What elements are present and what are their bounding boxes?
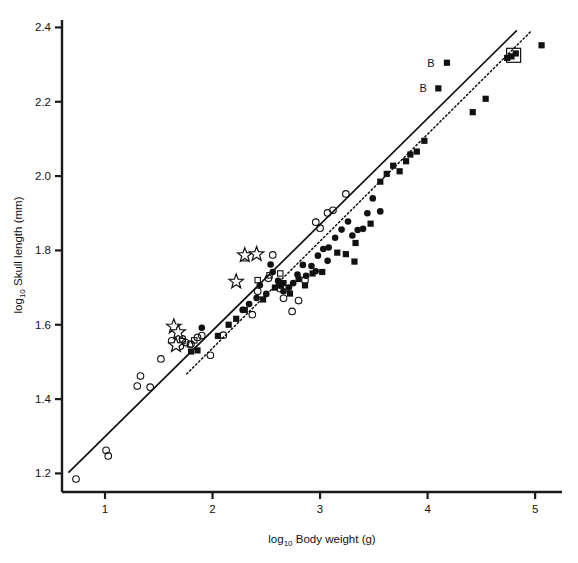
data-point-filled-circle bbox=[325, 244, 332, 251]
data-point-filled-circle bbox=[345, 218, 352, 225]
data-point-filled-circle bbox=[263, 291, 270, 298]
y-axis-title-text: Skull length (mm) bbox=[12, 196, 24, 286]
data-point-filled-circle bbox=[364, 210, 371, 217]
data-point-filled-circle bbox=[267, 261, 274, 268]
data-point-filled-circle bbox=[300, 262, 307, 269]
data-point-filled-square bbox=[414, 148, 420, 154]
data-point-filled-circle bbox=[257, 282, 264, 289]
data-point-filled-square bbox=[280, 280, 286, 286]
y-tick-label: 1.4 bbox=[35, 393, 52, 405]
data-point-filled-square bbox=[513, 50, 519, 56]
data-point-filled-square bbox=[390, 163, 396, 169]
data-point-filled-circle bbox=[349, 232, 356, 239]
x-axis-title-text: Body weight (g) bbox=[296, 533, 376, 545]
data-point-filled-circle bbox=[246, 301, 253, 308]
data-point-filled-square bbox=[403, 158, 409, 164]
data-point-filled-square bbox=[377, 179, 383, 185]
data-point-filled-square bbox=[302, 282, 308, 288]
data-point-filled-square bbox=[444, 60, 450, 66]
x-tick-label: 2 bbox=[209, 503, 215, 515]
y-tick-label: 2.4 bbox=[35, 21, 52, 33]
x-tick-label: 3 bbox=[317, 503, 323, 515]
data-point-filled-square bbox=[194, 347, 200, 353]
plot-canvas: BB 1.21.41.61.82.02.22.4 12345 log10 Sku… bbox=[0, 0, 578, 563]
scatter-plot-figure: BB 1.21.41.61.82.02.22.4 12345 log10 Sku… bbox=[0, 0, 578, 563]
data-point-filled-circle bbox=[332, 234, 339, 241]
data-point-filled-square bbox=[407, 151, 413, 157]
data-point-filled-circle bbox=[338, 226, 345, 233]
y-axis-title-prefix: log bbox=[12, 298, 24, 313]
data-point-filled-circle bbox=[377, 208, 384, 215]
point-annotation-label: B bbox=[420, 82, 427, 94]
data-point-filled-square bbox=[351, 258, 357, 264]
data-point-filled-circle bbox=[269, 269, 276, 276]
figure-background bbox=[0, 0, 578, 563]
data-point-filled-square bbox=[421, 138, 427, 144]
data-point-filled-square bbox=[538, 42, 544, 48]
y-tick-label: 1.2 bbox=[35, 467, 51, 479]
data-point-filled-circle bbox=[369, 195, 376, 202]
data-point-filled-square bbox=[352, 240, 358, 246]
data-point-filled-square bbox=[233, 316, 239, 322]
data-point-filled-square bbox=[309, 270, 315, 276]
data-point-filled-circle bbox=[324, 258, 331, 265]
x-axis-title-prefix: log bbox=[268, 533, 283, 545]
x-tick-label: 1 bbox=[102, 503, 108, 515]
data-point-filled-square bbox=[435, 85, 441, 91]
data-point-filled-square bbox=[483, 96, 489, 102]
data-point-filled-circle bbox=[303, 272, 310, 279]
data-point-filled-square bbox=[272, 284, 278, 290]
y-tick-label: 2.0 bbox=[35, 170, 51, 182]
data-point-filled-square bbox=[295, 276, 301, 282]
data-point-filled-square bbox=[319, 269, 325, 275]
data-point-filled-circle bbox=[308, 263, 315, 270]
y-tick-label: 2.2 bbox=[35, 96, 51, 108]
y-tick-label: 1.6 bbox=[35, 319, 51, 331]
data-point-filled-square bbox=[188, 348, 194, 354]
data-point-filled-square bbox=[470, 109, 476, 115]
data-point-filled-circle bbox=[315, 252, 322, 259]
data-point-filled-circle bbox=[198, 324, 205, 331]
data-point-filled-square bbox=[368, 221, 374, 227]
data-point-filled-circle bbox=[360, 226, 367, 233]
data-point-filled-circle bbox=[253, 295, 260, 302]
data-point-filled-square bbox=[287, 290, 293, 296]
data-point-filled-square bbox=[260, 296, 266, 302]
y-tick-label: 1.8 bbox=[35, 244, 51, 256]
data-point-filled-square bbox=[242, 307, 248, 313]
x-tick-label: 4 bbox=[424, 503, 431, 515]
data-point-filled-square bbox=[226, 322, 232, 328]
data-point-filled-square bbox=[397, 168, 403, 174]
data-point-filled-square bbox=[215, 333, 221, 339]
x-tick-label: 5 bbox=[532, 503, 538, 515]
data-point-filled-square bbox=[343, 251, 349, 257]
data-point-filled-circle bbox=[280, 288, 287, 295]
point-annotation-label: B bbox=[427, 57, 434, 69]
data-point-filled-square bbox=[334, 250, 340, 256]
data-point-filled-square bbox=[384, 171, 390, 177]
